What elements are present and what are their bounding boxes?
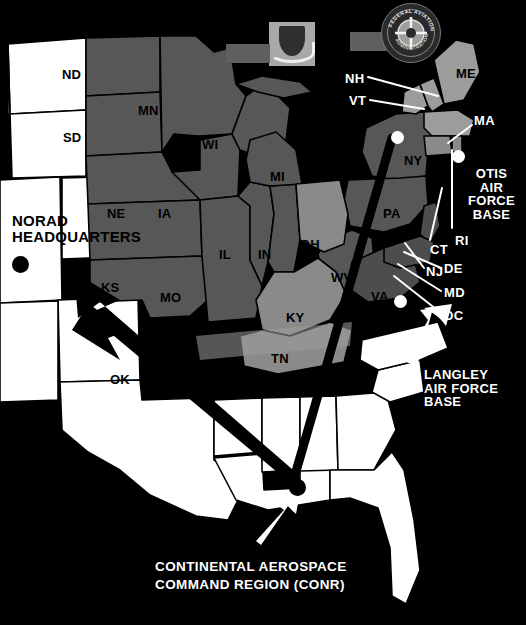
state-label-va: VA bbox=[371, 290, 389, 304]
callout-label-ct: CT bbox=[430, 243, 448, 257]
state-label-wv: WV bbox=[331, 271, 352, 285]
faa-seal-graphic: FEDERAL AVIATION ADMINISTRATION bbox=[382, 4, 440, 62]
callout-label-ma: MA bbox=[474, 114, 495, 128]
wings-icon bbox=[269, 42, 315, 63]
state-label-ny: NY bbox=[404, 154, 422, 168]
state-label-il: IL bbox=[219, 248, 231, 262]
langley-air-force-base-label: LANGLEY AIR FORCE BASE bbox=[424, 368, 498, 409]
gray-bar-left bbox=[226, 44, 270, 63]
tyndall-afb-marker bbox=[289, 479, 306, 496]
callout-label-dc: DC bbox=[444, 309, 463, 323]
callout-label-nh: NH bbox=[345, 72, 364, 86]
conr-caption: CONTINENTAL AEROSPACE COMMAND REGION (CO… bbox=[155, 558, 347, 594]
otis-afb-marker bbox=[452, 150, 465, 163]
callout-label-ri: RI bbox=[455, 234, 469, 248]
state-label-me: ME bbox=[456, 67, 476, 81]
state-label-wi: WI bbox=[202, 138, 218, 152]
state-label-pa: PA bbox=[383, 207, 401, 221]
state-label-nd: ND bbox=[62, 68, 81, 82]
otis-air-force-base-label: OTIS AIR FORCE BASE bbox=[468, 167, 515, 222]
state-label-in: IN bbox=[258, 248, 271, 262]
state-label-sd: SD bbox=[63, 131, 81, 145]
state-label-ia: IA bbox=[158, 207, 171, 221]
callout-label-nj: NJ bbox=[426, 265, 443, 279]
callout-label-md: MD bbox=[444, 286, 465, 300]
state-label-ks: KS bbox=[101, 281, 119, 295]
state-label-mn: MN bbox=[138, 104, 159, 118]
state-label-ky: KY bbox=[286, 311, 304, 325]
state-label-tn: TN bbox=[271, 352, 289, 366]
norad-hq-marker bbox=[12, 256, 29, 273]
state-label-mo: MO bbox=[160, 291, 181, 305]
state-label-mi: MI bbox=[270, 170, 285, 184]
neads-rome-ny-marker bbox=[391, 131, 404, 144]
callout-label-vt: VT bbox=[349, 94, 366, 108]
langley-afb-marker bbox=[394, 295, 407, 308]
state-label-ok: OK bbox=[110, 373, 130, 387]
callout-label-de: DE bbox=[444, 262, 463, 276]
norad-headquarters-label: NORAD HEADQUARTERS bbox=[12, 213, 141, 245]
usaf-shield-emblem bbox=[269, 22, 315, 66]
state-label-oh: OH bbox=[300, 238, 320, 252]
faa-seal-emblem: FEDERAL AVIATION ADMINISTRATION bbox=[381, 3, 441, 63]
conr-map-figure: FEDERAL AVIATION ADMINISTRATION ND SD MN… bbox=[0, 0, 526, 625]
